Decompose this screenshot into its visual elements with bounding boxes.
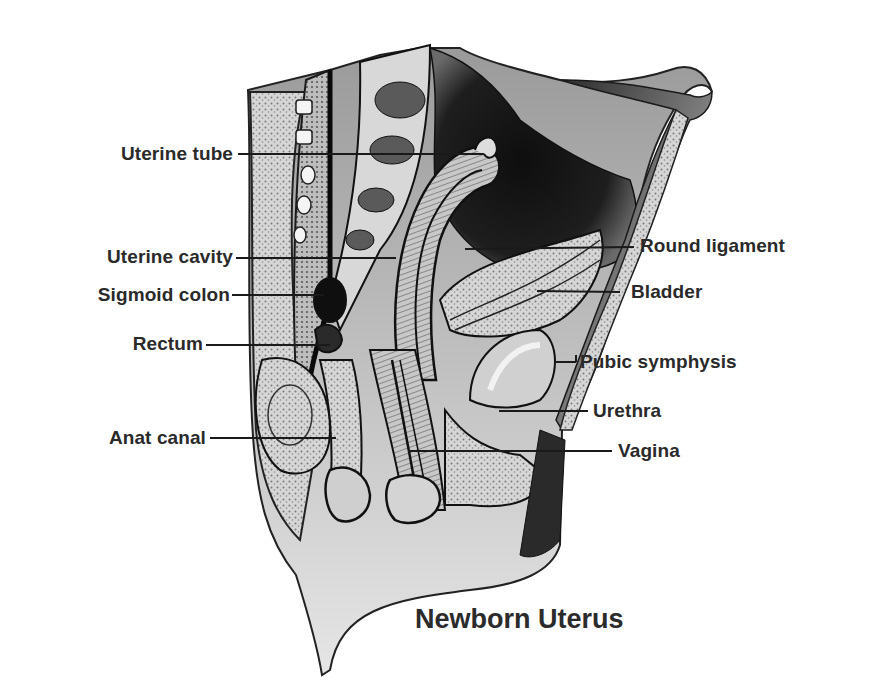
label-uterine-tube: Uterine tube — [121, 143, 233, 165]
label-bladder: Bladder — [631, 281, 702, 303]
label-sigmoid-colon: Sigmoid colon — [98, 284, 230, 306]
label-urethra: Urethra — [593, 400, 661, 422]
label-uterine-cavity: Uterine cavity — [107, 246, 233, 268]
label-vagina: Vagina — [618, 440, 680, 462]
label-anat-canal: Anat canal — [109, 427, 206, 449]
anatomy-diagram: Uterine tube Uterine cavity Sigmoid colo… — [0, 0, 879, 689]
label-pubic-symphysis: Pubic symphysis — [580, 351, 737, 373]
diagram-title: Newborn Uterus — [415, 604, 624, 635]
label-rectum: Rectum — [133, 333, 203, 355]
label-round-ligament: Round ligament — [640, 235, 785, 257]
